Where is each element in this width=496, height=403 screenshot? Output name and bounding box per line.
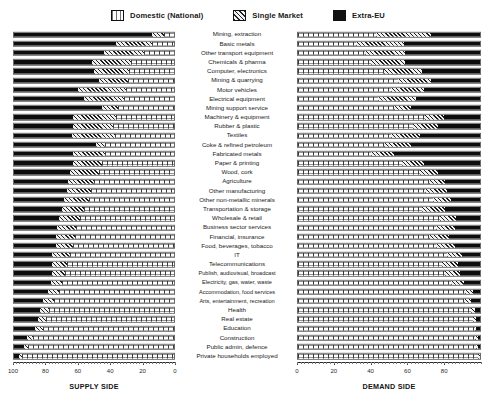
demand-axis-minor-tick bbox=[367, 362, 368, 364]
supply-stacked-bar bbox=[13, 206, 175, 212]
demand-axis-minor-tick bbox=[411, 362, 412, 364]
demand-segment-domestic bbox=[298, 326, 475, 330]
chart-row: Motor vehicles bbox=[0, 85, 496, 94]
demand-bar-cell bbox=[297, 270, 481, 277]
supply-stacked-bar bbox=[13, 31, 175, 37]
supply-axis-minor-tick bbox=[32, 362, 33, 364]
supply-axis-minor-tick bbox=[110, 362, 111, 364]
category-label: Transportation & storage bbox=[181, 205, 293, 214]
chart-row: Electrical equipment bbox=[0, 94, 496, 103]
supply-axis-minor-tick bbox=[68, 362, 69, 364]
supply-stacked-bar bbox=[13, 270, 175, 276]
demand-segment-extra-eu bbox=[449, 235, 480, 239]
chart-row: Public admin, defence bbox=[0, 342, 496, 351]
supply-axis-minor-tick bbox=[84, 362, 85, 364]
demand-segment-extra-eu bbox=[455, 244, 480, 248]
supply-bar-cell bbox=[13, 68, 175, 75]
supply-segment-single-market bbox=[104, 51, 144, 55]
supply-stacked-bar bbox=[13, 252, 175, 258]
supply-stacked-bar bbox=[13, 215, 175, 221]
supply-segment-domestic bbox=[105, 152, 174, 156]
supply-segment-extra-eu bbox=[14, 69, 94, 73]
supply-segment-domestic bbox=[84, 207, 174, 211]
chart-row: Machinery & equipment bbox=[0, 113, 496, 122]
supply-axis-minor-tick bbox=[117, 362, 118, 364]
demand-axis-minor-tick bbox=[481, 362, 482, 364]
demand-segment-domestic bbox=[298, 88, 391, 92]
chart-row: Basic metals bbox=[0, 39, 496, 48]
supply-stacked-bar bbox=[13, 59, 175, 65]
demand-segment-single-market bbox=[365, 51, 405, 55]
demand-bar-cell bbox=[297, 297, 481, 304]
supply-stacked-bar bbox=[13, 279, 175, 285]
category-label: IT bbox=[181, 251, 293, 260]
category-label: Accommodation, food services bbox=[181, 287, 293, 296]
demand-axis-minor-tick bbox=[474, 362, 475, 364]
demand-segment-extra-eu bbox=[424, 161, 480, 165]
supply-segment-extra-eu bbox=[14, 143, 96, 147]
demand-segment-domestic bbox=[298, 170, 420, 174]
chart-row: Financial, insurance bbox=[0, 232, 496, 241]
demand-segment-domestic bbox=[298, 179, 429, 183]
supply-segment-extra-eu bbox=[14, 161, 73, 165]
supply-axis-minor-tick bbox=[81, 362, 82, 364]
supply-segment-single-market bbox=[52, 253, 70, 257]
supply-axis-minor-tick bbox=[16, 362, 17, 364]
supply-segment-single-market bbox=[62, 207, 84, 211]
demand-segment-single-market bbox=[465, 290, 472, 294]
category-label: Other manufacturing bbox=[181, 186, 293, 195]
demand-segment-single-market bbox=[384, 69, 422, 73]
supply-segment-domestic bbox=[105, 143, 174, 147]
supply-segment-domestic bbox=[54, 299, 174, 303]
demand-stacked-bar bbox=[297, 68, 481, 74]
supply-stacked-bar bbox=[13, 142, 175, 148]
demand-stacked-bar bbox=[297, 335, 481, 341]
demand-bar-cell bbox=[297, 316, 481, 323]
demand-segment-single-market bbox=[429, 179, 445, 183]
supply-segment-single-market bbox=[73, 115, 116, 119]
supply-segment-domestic bbox=[73, 244, 174, 248]
demand-axis-minor-tick bbox=[470, 362, 471, 364]
supply-bar-cell bbox=[13, 196, 175, 203]
demand-bar-cell bbox=[297, 353, 481, 360]
demand-bar-cell bbox=[297, 49, 481, 56]
demand-segment-domestic bbox=[298, 42, 356, 46]
category-label: Basic metals bbox=[181, 39, 293, 48]
supply-segment-single-market bbox=[73, 152, 105, 156]
supply-stacked-bar bbox=[13, 87, 175, 93]
supply-segment-domestic bbox=[65, 271, 174, 275]
demand-stacked-bar bbox=[297, 279, 481, 285]
supply-stacked-bar bbox=[13, 188, 175, 194]
supply-axis-minor-tick bbox=[123, 362, 124, 364]
demand-segment-extra-eu bbox=[422, 69, 480, 73]
supply-segment-extra-eu bbox=[14, 216, 59, 220]
demand-segment-single-market bbox=[371, 60, 406, 64]
supply-axis-minor-tick bbox=[133, 362, 134, 364]
category-label: Other non-metallic minerals bbox=[181, 195, 293, 204]
supply-bar-cell bbox=[13, 252, 175, 259]
demand-segment-domestic bbox=[298, 198, 433, 202]
supply-axis-minor-tick bbox=[107, 362, 108, 364]
chart-row: Wholesale & retail bbox=[0, 214, 496, 223]
supply-segment-extra-eu bbox=[14, 308, 40, 312]
demand-stacked-bar bbox=[297, 41, 481, 47]
demand-segment-domestic bbox=[298, 69, 384, 73]
demand-segment-single-market bbox=[376, 32, 431, 36]
chart-row: Health bbox=[0, 306, 496, 315]
supply-segment-extra-eu bbox=[14, 152, 73, 156]
supply-axis-minor-tick bbox=[130, 362, 131, 364]
demand-axis-minor-tick bbox=[360, 362, 361, 364]
demand-bar-cell bbox=[297, 77, 481, 84]
supply-axis-title: SUPPLY SIDE bbox=[13, 382, 175, 391]
demand-stacked-bar bbox=[297, 298, 481, 304]
chart-row: Food, beverages, tobacco bbox=[0, 241, 496, 250]
supply-bar-cell bbox=[13, 343, 175, 350]
supply-stacked-bar bbox=[13, 41, 175, 47]
chart-row: Mining, extraction bbox=[0, 30, 496, 39]
supply-segment-domestic bbox=[80, 216, 174, 220]
demand-segment-single-market bbox=[402, 161, 424, 165]
chart-row: Rubber & plastic bbox=[0, 122, 496, 131]
demand-segment-domestic bbox=[298, 78, 398, 82]
supply-segment-single-market bbox=[51, 280, 62, 284]
supply-segment-domestic bbox=[102, 161, 174, 165]
